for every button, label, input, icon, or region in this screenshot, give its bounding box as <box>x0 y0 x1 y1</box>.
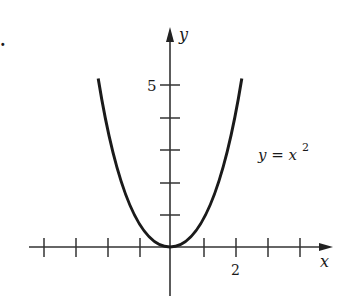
figure-marker: . <box>0 31 6 50</box>
y-axis-label: y <box>178 25 189 44</box>
x-axis-arrow-icon <box>319 243 333 251</box>
parabola-figure: . 2 x 5 y <box>0 0 351 302</box>
equation-text: y = x <box>257 146 298 164</box>
y-tick-label-5: 5 <box>147 77 157 95</box>
x-tick-label-2: 2 <box>231 262 240 278</box>
x-axis-label: x <box>320 252 329 271</box>
equation-label: y = x 2 <box>257 141 309 164</box>
y-axis <box>166 27 174 296</box>
y-axis-arrow-icon <box>166 27 174 42</box>
chart-svg: . 2 x 5 y <box>0 0 351 302</box>
equation-exponent: 2 <box>302 141 309 154</box>
